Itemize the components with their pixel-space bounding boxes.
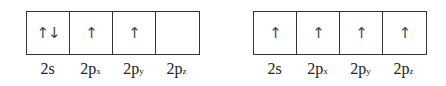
orbital-label-2pz: 2pz	[155, 60, 198, 78]
orbital-label-2px: 2px	[296, 60, 339, 78]
orbital-label-2s: 2s	[26, 60, 69, 78]
orbital-boxes: ↑↓ ↑ ↑	[26, 11, 200, 55]
orbital-label-2s: 2s	[253, 60, 296, 78]
orbital-boxes: ↑ ↑ ↑ ↑	[253, 11, 427, 55]
orbital-label-2py: 2py	[339, 60, 382, 78]
orbital-box-2px: ↑	[297, 12, 340, 54]
ground-state-diagram: ↑↓ ↑ ↑ 2s 2px 2py 2pz	[26, 11, 200, 78]
orbital-labels: 2s 2px 2py 2pz	[253, 60, 427, 78]
orbital-box-2px: ↑	[70, 12, 113, 54]
excited-state-diagram: ↑ ↑ ↑ ↑ 2s 2px 2py 2pz	[253, 11, 427, 78]
orbital-labels: 2s 2px 2py 2pz	[26, 60, 200, 78]
orbital-box-2pz: ↑	[383, 12, 426, 54]
orbital-label-2px: 2px	[69, 60, 112, 78]
orbital-box-2py: ↑	[340, 12, 383, 54]
orbital-box-2py: ↑	[113, 12, 156, 54]
orbital-box-2s: ↑	[254, 12, 297, 54]
orbital-label-2pz: 2pz	[382, 60, 425, 78]
orbital-label-2py: 2py	[112, 60, 155, 78]
orbital-box-2s: ↑↓	[27, 12, 70, 54]
orbital-box-2pz	[156, 12, 199, 54]
